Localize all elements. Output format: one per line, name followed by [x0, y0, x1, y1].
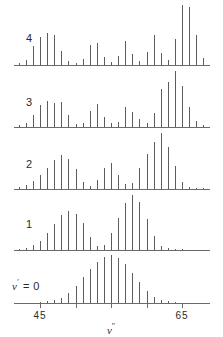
spectrum-stick — [90, 45, 91, 65]
spectrum-stick — [111, 62, 112, 65]
panel-label-vprime-0: v′ = 0 — [12, 278, 40, 292]
spectrum-stick — [118, 218, 119, 250]
spectrum-stick — [175, 166, 176, 189]
spectrum-stick — [154, 35, 155, 65]
spectrum-stick — [132, 273, 133, 303]
spectrum-stick — [33, 46, 34, 65]
spectrum-stick — [26, 123, 27, 127]
axis-tick — [147, 304, 148, 308]
axis-tick-label: 45 — [33, 310, 46, 321]
spectrum-stick — [83, 59, 84, 65]
spectrum-stick — [118, 56, 119, 65]
spectrum-panel-vprime-3: 3 — [0, 66, 223, 128]
spectrum-stick — [175, 39, 176, 65]
spectrum-stick — [90, 269, 91, 303]
spectrum-stick — [125, 184, 126, 189]
spectrum-stick — [90, 186, 91, 189]
spectrum-stick — [76, 169, 77, 189]
spectrum-stick — [97, 246, 98, 250]
spectrum-stick — [175, 71, 176, 127]
spectrum-stick — [196, 188, 197, 189]
x-axis: 4565 v″ — [0, 303, 223, 337]
spectrum-stick — [139, 282, 140, 303]
spectrum-stick — [61, 102, 62, 127]
axis-tick-label: 65 — [175, 310, 188, 321]
spectrum-stick — [168, 147, 169, 189]
spectrum-stick — [132, 195, 133, 250]
spectrum-stick — [125, 41, 126, 65]
spectrum-stick — [26, 185, 27, 189]
spectrum-stick — [125, 203, 126, 250]
spectrum-stick — [40, 241, 41, 250]
spectrum-stick — [104, 245, 105, 250]
spectrum-stick — [47, 33, 48, 65]
panel0-suffix: = 0 — [19, 280, 39, 292]
spectrum-stick — [182, 86, 183, 127]
spectrum-stick — [97, 43, 98, 65]
spectrum-stick — [168, 60, 169, 65]
spectrum-stick — [147, 291, 148, 303]
panel-label-vprime-1: 1 — [26, 218, 33, 230]
spectrum-stick — [76, 63, 77, 65]
spectrum-stick — [118, 175, 119, 189]
spectrum-stick — [154, 142, 155, 189]
spectrum-stick — [33, 115, 34, 127]
spectrum-stick — [97, 262, 98, 303]
spectrum-stick — [104, 168, 105, 189]
spectrum-stick — [54, 103, 55, 127]
spectrum-stick — [111, 123, 112, 127]
spectrum-stick — [104, 57, 105, 65]
spectrum-stick — [83, 123, 84, 127]
spectrum-stick — [118, 122, 119, 127]
spectrum-stick — [139, 202, 140, 250]
x-axis-title: v″ — [107, 322, 115, 336]
spectrum-stick — [139, 119, 140, 127]
spectrum-stick — [189, 107, 190, 127]
spectrum-panel-vprime-0: v′ = 0 — [0, 251, 223, 304]
spectrum-stick — [132, 54, 133, 65]
spectrum-stick — [147, 154, 148, 189]
spectrum-stick — [125, 107, 126, 127]
spectrum-stick — [104, 117, 105, 127]
spectrum-stick — [154, 236, 155, 250]
spectrum-stick — [33, 181, 34, 189]
spectrum-stick — [168, 248, 169, 250]
spectrum-stick — [147, 123, 148, 127]
spectrum-stick — [90, 237, 91, 250]
spectrum-stick — [182, 182, 183, 189]
spectrum-stick — [161, 89, 162, 127]
spectrum-stick — [147, 219, 148, 250]
spectrum-stick — [76, 286, 77, 303]
spectrum-panel-vprime-1: 1 — [0, 190, 223, 251]
spectrum-stick — [83, 277, 84, 303]
spectrum-stick — [182, 5, 183, 65]
spectrum-stick — [76, 124, 77, 127]
spectrum-stick — [139, 168, 140, 189]
spectrum-stick — [54, 224, 55, 250]
panel-label-vprime-3: 3 — [26, 96, 33, 108]
spectrum-stick — [40, 175, 41, 189]
spectrum-stick — [68, 159, 69, 189]
spectrum-stick — [61, 215, 62, 250]
spectrum-stick — [132, 112, 133, 127]
spectrum-stick — [168, 82, 169, 127]
spectrum-stick — [26, 60, 27, 65]
spectrum-stick — [61, 155, 62, 189]
spectrum-stick — [19, 249, 20, 250]
spectrum-stick — [161, 246, 162, 250]
spectrum-stick — [76, 214, 77, 250]
spectrum-stick — [68, 61, 69, 65]
spectrum-stick — [111, 233, 112, 250]
spectrum-stick — [196, 121, 197, 127]
spectrum-stick — [104, 257, 105, 303]
spectrum-stick — [68, 115, 69, 127]
spectrum-stick — [47, 168, 48, 189]
axis-tick — [111, 304, 112, 308]
spectrum-stick — [54, 160, 55, 189]
spectrum-stick — [175, 249, 176, 250]
axis-tick — [76, 304, 77, 308]
spectrum-stick — [47, 101, 48, 127]
spectrum-stick — [97, 180, 98, 189]
spectrum-stick — [203, 188, 204, 189]
spectrum-stick — [182, 249, 183, 250]
